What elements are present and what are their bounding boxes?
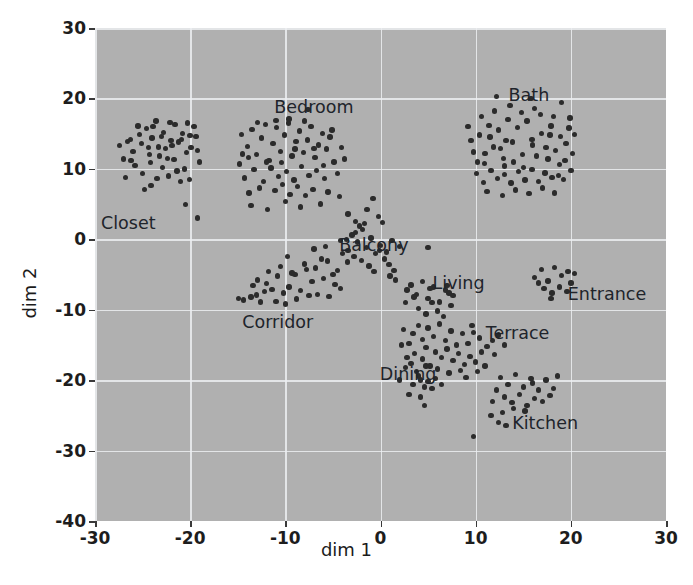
x-axis-label: dim 1 — [0, 539, 693, 560]
scatter-point — [258, 299, 263, 304]
scatter-point — [360, 227, 365, 232]
scatter-point — [279, 160, 284, 165]
scatter-point — [563, 141, 568, 146]
scatter-point — [500, 193, 505, 198]
scatter-point — [500, 410, 505, 415]
scatter-point — [404, 355, 409, 360]
scatter-point — [325, 258, 330, 263]
scatter-point — [286, 284, 291, 289]
scatter-point — [460, 331, 465, 336]
y-tick-mark — [89, 169, 95, 171]
scatter-point — [567, 115, 572, 120]
scatter-point — [444, 346, 449, 351]
scatter-point — [520, 152, 525, 157]
gridline-horizontal — [95, 169, 666, 171]
scatter-point — [551, 386, 556, 391]
scatter-point — [429, 386, 434, 391]
scatter-point — [302, 118, 307, 123]
scatter-point — [330, 272, 335, 277]
x-tick-mark — [666, 521, 668, 527]
scatter-point — [272, 188, 277, 193]
scatter-point — [524, 118, 529, 123]
scatter-point — [254, 292, 259, 297]
x-tick-mark — [381, 521, 383, 527]
scatter-point — [321, 276, 326, 281]
scatter-point — [486, 123, 491, 128]
scatter-point — [433, 349, 438, 354]
scatter-point — [319, 256, 324, 261]
scatter-point — [503, 138, 508, 143]
scatter-point — [254, 152, 259, 157]
scatter-point — [521, 384, 526, 389]
scatter-point — [561, 177, 566, 182]
scatter-point — [251, 167, 256, 172]
y-tick-label: 0 — [74, 231, 86, 248]
scatter-point — [515, 125, 520, 130]
scatter-point — [338, 286, 343, 291]
scatter-point — [291, 177, 296, 182]
scatter-point — [311, 146, 316, 151]
scatter-point — [572, 132, 577, 137]
scatter-point — [529, 167, 534, 172]
scatter-point — [387, 273, 392, 278]
scatter-point — [495, 176, 500, 181]
scatter-point — [320, 131, 325, 136]
scatter-point — [441, 314, 446, 319]
y-tick-label: 30 — [62, 20, 86, 37]
scatter-point — [566, 125, 571, 130]
scatter-point — [309, 279, 314, 284]
scatter-point — [261, 179, 266, 184]
scatter-point — [469, 323, 474, 328]
scatter-point — [532, 275, 537, 280]
scatter-point — [548, 123, 553, 128]
gridline-horizontal — [95, 310, 666, 312]
scatter-point — [545, 278, 550, 283]
cluster-label-bath: Bath — [509, 88, 550, 106]
scatter-point — [266, 269, 271, 274]
scatter-point — [423, 345, 428, 350]
scatter-point — [543, 145, 548, 150]
scatter-point — [240, 151, 245, 156]
x-tick-mark — [95, 521, 97, 527]
scatter-point — [446, 370, 451, 375]
scatter-point — [551, 114, 556, 119]
scatter-point — [517, 392, 522, 397]
scatter-point — [273, 299, 278, 304]
cluster-label-terrace: Terrace — [486, 325, 550, 343]
scatter-point — [335, 171, 340, 176]
scatter-point — [326, 294, 331, 299]
scatter-point — [154, 176, 159, 181]
scatter-point — [156, 144, 161, 149]
scatter-point — [316, 142, 321, 147]
scatter-point — [467, 354, 472, 359]
scatter-point — [159, 134, 164, 139]
scatter-point — [406, 392, 411, 397]
scatter-point — [169, 143, 174, 148]
scatter-point — [144, 126, 149, 131]
scatter-point — [425, 245, 430, 250]
scatter-point — [331, 159, 336, 164]
x-tick-mark — [571, 521, 573, 527]
scatter-point — [265, 207, 270, 212]
scatter-point — [502, 163, 507, 168]
scatter-point — [304, 267, 309, 272]
scatter-point — [294, 296, 299, 301]
scatter-point — [532, 106, 537, 111]
scatter-point — [437, 321, 442, 326]
scatter-point — [191, 124, 196, 129]
scatter-point — [242, 175, 247, 180]
scatter-point — [188, 145, 193, 150]
scatter-point — [565, 269, 570, 274]
scatter-point — [276, 174, 281, 179]
scatter-point — [135, 123, 140, 128]
scatter-point — [399, 342, 404, 347]
scatter-point — [420, 356, 425, 361]
scatter-point — [473, 359, 478, 364]
scatter-point — [526, 191, 531, 196]
cluster-label-kitchen: Kitchen — [512, 415, 578, 433]
scatter-point — [540, 399, 545, 404]
y-tick-label: 10 — [62, 160, 86, 177]
scatter-point — [183, 202, 188, 207]
scatter-point — [443, 338, 448, 343]
scatter-point — [293, 139, 298, 144]
